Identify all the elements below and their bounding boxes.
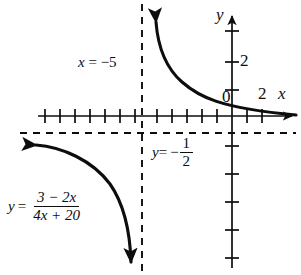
y-tick-label-2: 2 [240,52,249,69]
horizontal-asymptote-label: y = − 1 2 [152,136,194,169]
vertical-asymptote-value: −5 [101,54,117,70]
y-axis-label: y [216,6,224,23]
vertical-asymptote-label: x = −5 [78,55,117,70]
x-axis-label: x [278,85,286,102]
function-denominator: 4x + 20 [30,207,83,223]
horizontal-asymptote-lhs: y [152,145,159,160]
horizontal-asymptote-minus: − [170,145,178,160]
graph-canvas [0,0,301,275]
y-axis [225,16,239,268]
vertical-asymptote-lhs: x [78,54,85,70]
function-equals: = [18,199,26,214]
fraction-denominator: 2 [180,153,194,169]
x-tick-label-2: 2 [258,85,267,102]
function-fraction: 3 − 2x 4x + 20 [30,190,83,223]
fraction-numerator: 1 [180,136,194,153]
function-equation-label: y = 3 − 2x 4x + 20 [8,190,84,223]
origin-label: 0 [222,88,231,105]
rational-function-graph-figure: y x 2 0 2 x = −5 y = − 1 2 y = 3 − 2x 4x… [0,0,301,275]
function-lhs: y [8,199,15,214]
function-numerator: 3 − 2x [34,190,79,207]
horizontal-asymptote-fraction: 1 2 [180,136,194,169]
vertical-asymptote-equals: = [88,54,96,70]
horizontal-asymptote-equals: = [159,145,167,160]
